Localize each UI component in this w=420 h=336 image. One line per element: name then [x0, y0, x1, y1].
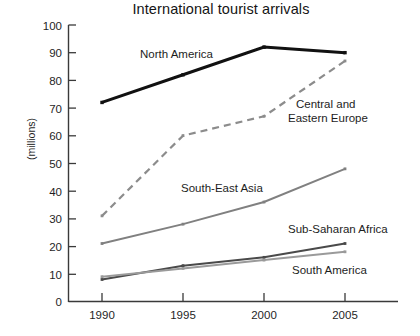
y-tick-label-0: 0 [56, 296, 62, 308]
data-point [344, 60, 347, 63]
series-label-central-eastern-europe-line1: Central and [296, 98, 355, 110]
x-tick-label-1990: 1990 [89, 309, 115, 321]
series-label-sub-saharan-africa: Sub-Saharan Africa [288, 223, 388, 235]
series-annotations: North America Central and Eastern Europe… [140, 48, 388, 276]
data-point [182, 134, 185, 137]
x-axis-ticks [102, 293, 345, 302]
y-axis-tick-labels: 100 90 80 70 60 50 40 30 20 10 0 [43, 20, 62, 309]
series-label-south-east-asia: South-East Asia [181, 182, 263, 194]
data-point [263, 201, 266, 204]
x-axis-tick-labels: 1990 1995 2000 2005 [89, 309, 358, 321]
series-label-north-america: North America [140, 48, 213, 60]
data-point [263, 259, 266, 262]
series-north-america [100, 45, 346, 104]
y-tick-label-30: 30 [49, 213, 62, 225]
y-tick-label-90: 90 [49, 47, 62, 59]
series-label-central-eastern-europe-line2: Eastern Europe [288, 112, 368, 124]
data-point [263, 115, 266, 118]
data-point [344, 167, 347, 170]
x-tick-label-2005: 2005 [332, 309, 358, 321]
data-point [182, 223, 185, 226]
y-tick-label-60: 60 [49, 130, 62, 142]
y-tick-label-70: 70 [49, 103, 62, 115]
data-point [182, 264, 185, 267]
x-tick-label-2000: 2000 [251, 309, 277, 321]
data-point [101, 278, 104, 281]
data-point [181, 73, 184, 76]
data-point [344, 250, 347, 253]
data-point [101, 214, 104, 217]
y-axis-ticks [69, 25, 77, 274]
data-point [263, 256, 266, 259]
data-point [101, 242, 104, 245]
y-tick-label-80: 80 [49, 75, 62, 87]
data-point [101, 275, 104, 278]
data-point [343, 51, 346, 54]
y-tick-label-50: 50 [49, 158, 62, 170]
data-point [344, 242, 347, 245]
chart-container: International tourist arrivals (millions… [0, 0, 420, 336]
y-tick-label-20: 20 [49, 241, 62, 253]
y-tick-label-100: 100 [43, 20, 62, 32]
data-point [262, 45, 265, 48]
series-layer [100, 45, 346, 280]
y-tick-label-40: 40 [49, 186, 62, 198]
data-point [100, 101, 103, 104]
series-label-south-america: South America [292, 264, 367, 276]
plot-area: 100 90 80 70 60 50 40 30 20 10 0 1990 19… [0, 0, 420, 336]
data-point [182, 267, 185, 270]
x-tick-label-1995: 1995 [170, 309, 196, 321]
y-tick-label-10: 10 [49, 269, 62, 281]
series-line [102, 47, 345, 102]
